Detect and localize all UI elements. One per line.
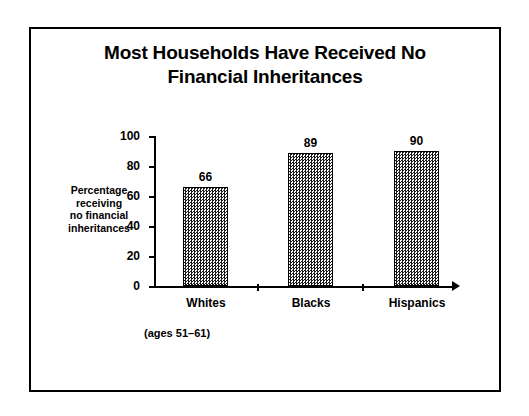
bar-hispanics: 90 <box>394 151 439 286</box>
y-tick-label-0: 0 <box>133 279 140 293</box>
chart-title-line-1: Most Households Have Received No <box>31 41 499 65</box>
y-axis-line <box>154 136 156 288</box>
category-label-whites: Whites <box>151 296 261 310</box>
figure-frame: Most Households Have Received No Financi… <box>29 27 501 392</box>
plot-area: 0 20 40 60 80 100 66 89 90 Whites <box>154 136 456 290</box>
y-tick-label-80: 80 <box>127 159 140 173</box>
category-label-hispanics: Hispanics <box>362 296 472 310</box>
bar-whites: 66 <box>183 187 228 286</box>
chart-title-line-2: Financial Inheritances <box>31 65 499 89</box>
y-tick-80: 80 <box>149 166 156 168</box>
bar-blacks: 89 <box>288 153 333 287</box>
y-tick-20: 20 <box>149 256 156 258</box>
x-tick-2 <box>362 284 364 291</box>
bar-value-hispanics: 90 <box>395 134 438 148</box>
category-label-blacks: Blacks <box>256 296 366 310</box>
y-tick-0: 0 <box>149 286 156 288</box>
y-tick-label-40: 40 <box>127 219 140 233</box>
y-tick-label-60: 60 <box>127 189 140 203</box>
footnote: (ages 51–61) <box>144 327 210 339</box>
y-tick-60: 60 <box>149 196 156 198</box>
y-tick-label-20: 20 <box>127 249 140 263</box>
x-axis-arrow-icon <box>452 281 460 291</box>
y-tick-40: 40 <box>149 226 156 228</box>
x-tick-1 <box>257 284 259 291</box>
y-tick-label-100: 100 <box>120 129 140 143</box>
bar-value-blacks: 89 <box>289 136 332 150</box>
x-axis-line <box>154 286 454 288</box>
bar-value-whites: 66 <box>184 170 227 184</box>
y-tick-100: 100 <box>149 136 156 138</box>
chart-title: Most Households Have Received No Financi… <box>31 41 499 89</box>
